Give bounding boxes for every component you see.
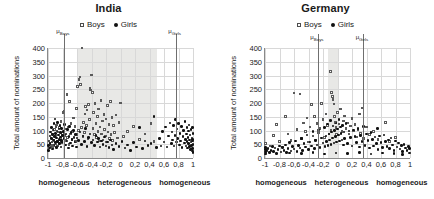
- data-point-girls: [186, 126, 189, 129]
- data-point-girls: [180, 125, 183, 128]
- x-category-labels-germany: homogeneous heterogeneous homogeneous: [251, 178, 432, 187]
- data-point-girls: [336, 128, 339, 131]
- data-point-boys: [82, 121, 85, 124]
- data-point-girls: [294, 140, 297, 143]
- data-point-girls: [74, 133, 77, 136]
- data-point-boys: [153, 140, 156, 143]
- x-axis-tick-label: -0,2: [317, 160, 330, 169]
- data-point-boys: [68, 100, 71, 103]
- data-point-girls: [377, 148, 380, 151]
- gridline-horizontal: [265, 76, 410, 77]
- data-point-girls: [158, 137, 161, 140]
- x-axis-tick-label: 0,8: [390, 160, 400, 169]
- data-point-girls: [192, 143, 195, 146]
- data-point-boys: [349, 125, 352, 128]
- data-point-girls: [189, 134, 192, 137]
- data-point-boys: [144, 133, 147, 136]
- data-point-boys: [90, 74, 93, 77]
- data-point-boys: [97, 108, 100, 111]
- data-point-boys: [333, 115, 336, 118]
- data-point-boys: [278, 140, 281, 143]
- y-axis-tick-label: 100: [32, 126, 45, 135]
- data-point-boys: [122, 135, 125, 138]
- data-point-boys: [299, 93, 302, 96]
- data-point-girls: [93, 144, 96, 147]
- data-point-girls: [108, 146, 111, 149]
- legend-marker-girls-icon: [331, 23, 335, 27]
- gridline-horizontal: [265, 62, 410, 63]
- data-point-boys: [354, 123, 357, 126]
- data-point-boys: [322, 118, 325, 121]
- data-point-girls: [330, 143, 333, 146]
- category-label-heterogeneous: heterogeneous: [311, 178, 371, 187]
- data-point-boys: [348, 133, 351, 136]
- x-axis-tick-label: -0,6: [288, 160, 301, 169]
- data-point-girls: [370, 131, 373, 134]
- data-point-girls: [71, 138, 74, 141]
- data-point-girls: [96, 141, 99, 144]
- data-point-boys: [272, 134, 275, 137]
- data-point-girls: [359, 134, 362, 137]
- data-point-girls: [370, 153, 373, 156]
- data-point-girls: [323, 126, 326, 129]
- y-axis-tick-label: 50: [37, 140, 45, 149]
- data-point-girls: [343, 137, 346, 140]
- data-point-girls: [364, 144, 367, 147]
- data-point-girls: [355, 141, 358, 144]
- data-point-girls: [67, 147, 70, 150]
- data-point-boys: [75, 107, 78, 110]
- data-point-girls: [47, 149, 50, 152]
- data-point-girls: [334, 135, 337, 138]
- data-point-girls: [319, 146, 322, 149]
- data-point-girls: [66, 140, 69, 143]
- data-point-girls: [300, 137, 303, 140]
- data-point-girls: [132, 141, 135, 144]
- data-point-boys: [118, 121, 121, 124]
- y-axis-tick-label: 250: [32, 85, 45, 94]
- x-axis-tick-label: 0: [118, 160, 122, 169]
- data-point-girls: [68, 125, 71, 128]
- y-axis-tick-label: 300: [32, 71, 45, 80]
- data-point-boys: [325, 113, 328, 116]
- data-point-girls: [65, 133, 68, 136]
- data-point-boys: [109, 100, 112, 103]
- data-point-girls: [288, 141, 291, 144]
- x-axis-tick-label: 0,4: [144, 160, 154, 169]
- data-point-boys: [103, 113, 106, 116]
- data-point-boys: [287, 133, 290, 136]
- data-point-boys: [115, 114, 118, 117]
- legend-marker-girls-icon: [114, 23, 118, 27]
- data-point-boys: [138, 138, 141, 141]
- data-point-girls: [300, 152, 303, 155]
- data-point-boys: [304, 130, 307, 133]
- panel-india: India Boys Girls Total amount of nominat…: [0, 0, 217, 199]
- x-axis-tick-label: 0,4: [361, 160, 371, 169]
- data-point-girls: [324, 145, 327, 148]
- data-point-boys: [150, 122, 153, 125]
- data-point-boys: [264, 142, 267, 145]
- data-point-boys: [339, 108, 342, 111]
- data-point-boys: [80, 126, 83, 129]
- data-point-girls: [111, 144, 114, 147]
- data-point-girls: [307, 148, 310, 151]
- mu-label-girls: μGirls: [356, 34, 369, 42]
- legend-marker-boys-icon: [297, 23, 301, 27]
- data-point-boys: [78, 78, 81, 81]
- data-point-boys: [96, 115, 99, 118]
- data-point-girls: [328, 139, 331, 142]
- x-axis-tick-label: -1: [262, 160, 269, 169]
- data-point-boys: [72, 117, 75, 120]
- y-axis-tick-label: 100: [249, 126, 262, 135]
- data-point-boys: [275, 123, 278, 126]
- y-axis-tick-label: 150: [32, 112, 45, 121]
- gridline-horizontal: [265, 131, 410, 132]
- legend-label-girls: Girls: [121, 20, 137, 29]
- data-point-boys: [92, 111, 95, 114]
- data-point-girls: [381, 146, 384, 149]
- data-point-boys: [296, 128, 299, 131]
- data-point-boys: [132, 125, 135, 128]
- data-point-girls: [357, 127, 360, 130]
- category-label-homogeneous-left: homogeneous: [251, 178, 311, 187]
- data-point-boys: [103, 128, 106, 131]
- data-point-girls: [166, 146, 169, 149]
